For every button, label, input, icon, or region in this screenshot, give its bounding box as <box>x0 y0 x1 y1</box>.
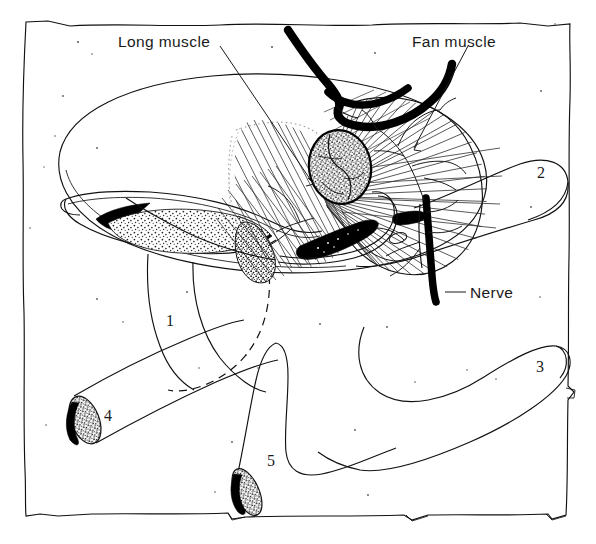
outer-frame <box>23 21 575 521</box>
limb-1-number: 1 <box>166 312 174 329</box>
central-ganglion <box>304 126 377 209</box>
anatomical-figure: 4 5 <box>0 0 596 544</box>
limb-4-number: 4 <box>104 407 112 424</box>
limb-3 <box>318 327 570 471</box>
fan-muscle-label: Fan muscle <box>412 33 496 50</box>
limb-2-number: 2 <box>537 164 545 181</box>
long-muscle <box>61 191 322 253</box>
limb-3-number: 3 <box>536 358 544 375</box>
nerve-label: Nerve <box>470 284 513 301</box>
limb-5-number: 5 <box>267 452 275 469</box>
limb-4: 4 <box>63 320 278 448</box>
long-muscle-leader <box>220 46 312 182</box>
figure-canvas: 4 5 <box>0 0 596 544</box>
long-muscle-label: Long muscle <box>118 33 210 50</box>
limb-5: 5 <box>226 343 396 520</box>
paper-specks <box>29 23 556 496</box>
